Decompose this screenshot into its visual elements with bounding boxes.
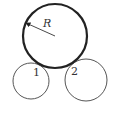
label-circle-1: 1	[33, 66, 40, 79]
radius-label: R	[42, 17, 51, 30]
small-circle-1	[13, 63, 49, 99]
diagram-canvas: R 1 2	[0, 0, 115, 113]
label-circle-2: 2	[71, 65, 78, 78]
